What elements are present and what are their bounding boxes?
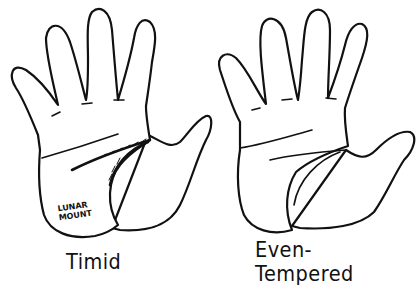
left-hand-drawing — [12, 9, 211, 237]
caption-even-tempered: Even-Tempered — [255, 238, 404, 286]
caption-timid: Timid — [66, 250, 121, 274]
right-hand-drawing — [219, 10, 414, 233]
